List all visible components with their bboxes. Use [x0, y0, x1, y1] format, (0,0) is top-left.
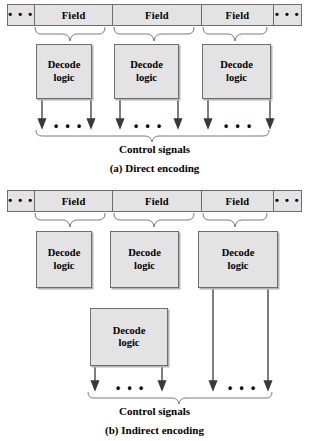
decode-logic-label: Decodelogic: [48, 247, 81, 272]
signal-arrowhead-a-2: [87, 119, 94, 128]
decode-logic-label: Decodelogic: [220, 59, 253, 84]
decode-logic-box-a-2: Decodelogic: [114, 44, 179, 99]
decode-logic-box-b-3: Decodelogic: [198, 231, 278, 288]
decode-logic-label: Decodelogic: [48, 59, 81, 84]
brace-field-1: [35, 27, 105, 41]
decode-logic-box-a-1: Decodelogic: [36, 44, 92, 99]
signal-arrowhead-a-1: [38, 119, 45, 128]
signal-ellipsis-a-1: • • •: [54, 120, 83, 132]
signal-arrowhead-a-4: [174, 119, 181, 128]
panel-direct-encoding: • • • Field Field Field • • •: [0, 0, 309, 180]
decode-logic-label: Decodelogic: [222, 247, 255, 272]
signal-ellipsis-b-2: • • •: [228, 382, 257, 394]
decode-logic-label: Decodelogic: [130, 59, 163, 84]
signal-arrowhead-b-1: [91, 381, 98, 390]
decode-logic-box-b-second-level: Decodelogic: [90, 308, 168, 366]
control-signals-label-b: Control signals: [0, 405, 309, 417]
panel-caption-b: (b) Indirect encoding: [0, 424, 309, 436]
signal-arrowhead-b-3: [209, 381, 216, 390]
brace-field-3: [203, 27, 267, 41]
signal-ellipsis-b-1: • • •: [116, 382, 145, 394]
brace-field-3: [203, 213, 267, 227]
signal-arrowhead-a-3: [116, 119, 123, 128]
brace-field-2: [114, 213, 194, 227]
brace-field-1: [35, 213, 105, 227]
decode-logic-box-a-3: Decodelogic: [202, 44, 271, 99]
signal-ellipsis-a-2: • • •: [134, 120, 163, 132]
control-signals-label-a: Control signals: [0, 143, 309, 155]
decode-logic-label: Decodelogic: [113, 325, 146, 350]
signal-ellipsis-a-3: • • •: [224, 120, 253, 132]
signal-arrowhead-a-5: [204, 119, 211, 128]
panel-indirect-encoding: • • • Field Field Field • • • Decodelo: [0, 181, 309, 441]
brace-field-2: [114, 27, 194, 41]
decode-logic-box-b-2: Decodelogic: [110, 231, 179, 288]
signal-arrowhead-a-6: [266, 119, 273, 128]
decode-logic-label: Decodelogic: [128, 247, 161, 272]
signal-arrowhead-b-4: [264, 381, 271, 390]
decode-logic-box-b-1: Decodelogic: [36, 231, 92, 288]
panel-caption-a: (a) Direct encoding: [0, 162, 309, 174]
signal-arrowhead-b-2: [158, 381, 165, 390]
